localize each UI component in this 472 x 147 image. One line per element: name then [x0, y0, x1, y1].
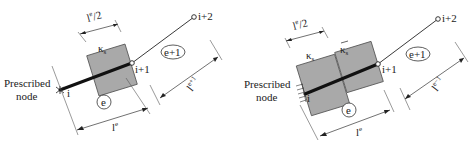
- node-i2-icon: [192, 15, 197, 20]
- prescribed-node-label-line2: node: [16, 90, 38, 102]
- node-i2-icon: [436, 17, 441, 22]
- half-length-dimension: [80, 24, 118, 34]
- node-i1-icon: [376, 62, 381, 67]
- kappa-label: κs: [306, 49, 315, 63]
- length-e1-label: le−1: [428, 74, 447, 93]
- element-e-label: e: [346, 104, 351, 116]
- left-figure: e e+1 Prescribed node i i+1 i+2 κs le/2 …: [4, 8, 222, 135]
- element-e1-label: e+1: [409, 48, 426, 60]
- node-i2-label: i+2: [442, 12, 457, 24]
- node-i1-label: i+1: [382, 63, 397, 75]
- prescribed-node-label: Prescribed: [244, 78, 291, 90]
- length-e-label: le: [356, 125, 362, 138]
- right-figure: e e+1 Prescribed node i i+1 i+2 κs κs le…: [244, 12, 468, 140]
- extension-line: [52, 66, 78, 135]
- half-length-dimension: [286, 31, 324, 41]
- prescribed-node-label: Prescribed: [4, 77, 51, 89]
- half-length-label: le/2: [291, 16, 309, 32]
- node-i1-label: i+1: [135, 63, 150, 75]
- node-i-label: i: [67, 87, 70, 99]
- node-i2-label: i+2: [198, 10, 213, 22]
- prescribed-node-label-line2: node: [256, 91, 278, 103]
- node-i-label: i: [307, 92, 310, 104]
- element-e-label: e: [101, 96, 106, 108]
- kappa-bar-label: κs: [340, 43, 349, 57]
- element-e1-label: e+1: [164, 46, 181, 58]
- length-e-label: le: [112, 120, 118, 133]
- beam-element-diagram: e e+1 Prescribed node i i+1 i+2 κs le/2 …: [0, 0, 472, 147]
- half-length-label: le/2: [85, 8, 103, 24]
- node-i1-icon: [130, 61, 135, 66]
- length-e1-label: le+1: [183, 74, 202, 93]
- kappa-label: κs: [98, 42, 107, 56]
